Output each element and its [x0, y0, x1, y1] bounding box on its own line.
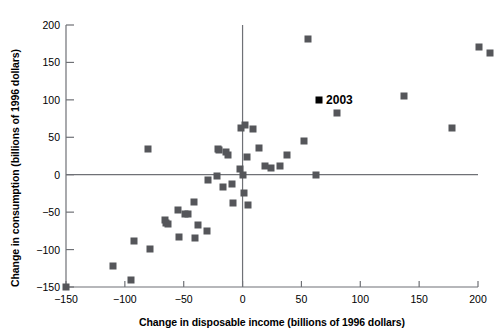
data-point [250, 126, 257, 133]
x-axis-title: Change in disposable income (billions of… [66, 316, 478, 328]
data-point [216, 147, 223, 154]
data-point [239, 172, 246, 179]
x-tick-label: −50 [175, 293, 193, 305]
x-tick-label: 200 [469, 293, 487, 305]
data-point-highlighted [316, 96, 323, 103]
y-tick-label: −100 [36, 244, 60, 256]
data-point [277, 162, 284, 169]
y-tick-label: −150 [36, 281, 60, 293]
y-tick-label: 0 [54, 169, 60, 181]
data-point [185, 210, 192, 217]
x-tick-label: −100 [113, 293, 137, 305]
y-axis-title: Change in consumption (billions of 1996 … [0, 0, 30, 336]
y-tick-label: 150 [42, 56, 60, 68]
data-point [400, 93, 407, 100]
data-point [110, 263, 117, 270]
data-point [146, 245, 153, 252]
scatter-plot-figure: −150−100−50050100150200 −150−100−5005010… [0, 0, 502, 336]
data-point [165, 221, 172, 228]
data-point [213, 173, 220, 180]
x-tick-label: 0 [240, 293, 246, 305]
data-point [174, 206, 181, 213]
x-tick-label: 50 [296, 293, 308, 305]
data-point [204, 227, 211, 234]
data-point [219, 184, 226, 191]
data-point [284, 152, 291, 159]
data-point [312, 172, 319, 179]
data-point [145, 145, 152, 152]
data-point [256, 144, 263, 151]
data-point [127, 277, 134, 284]
annotation-label-2003: 2003 [326, 93, 353, 107]
data-point [225, 151, 232, 158]
plot-axes [0, 0, 502, 336]
data-point [176, 233, 183, 240]
data-point [241, 121, 248, 128]
data-point [63, 284, 70, 291]
data-point [244, 153, 251, 160]
data-point [449, 124, 456, 131]
data-point [230, 200, 237, 207]
data-point [476, 44, 483, 51]
data-point [300, 138, 307, 145]
data-point [486, 49, 493, 56]
data-point [205, 176, 212, 183]
x-tick-label: 100 [352, 293, 370, 305]
data-point [333, 109, 340, 116]
data-point [192, 234, 199, 241]
data-point [131, 237, 138, 244]
y-tick-label: 100 [42, 94, 60, 106]
x-tick-label: 150 [410, 293, 428, 305]
data-point [228, 181, 235, 188]
data-point [245, 201, 252, 208]
data-point [305, 36, 312, 43]
y-tick-label: −50 [42, 206, 60, 218]
data-point [194, 221, 201, 228]
x-tick-label: −150 [54, 293, 78, 305]
data-point [267, 164, 274, 171]
data-point [191, 199, 198, 206]
data-point [240, 190, 247, 197]
y-tick-label: 50 [48, 131, 60, 143]
y-tick-label: 200 [42, 19, 60, 31]
